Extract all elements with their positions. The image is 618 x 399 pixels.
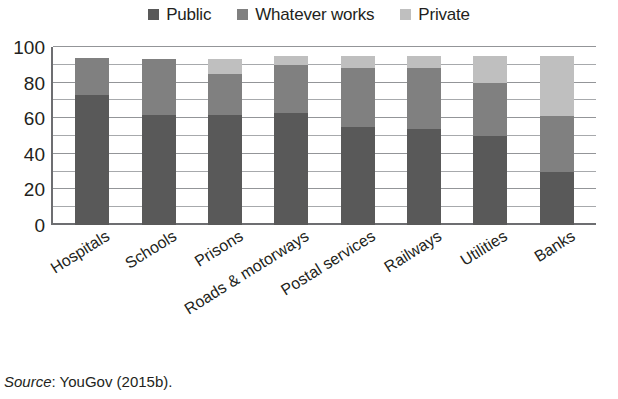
legend-label: Whatever works — [255, 6, 374, 23]
bar-column[interactable] — [274, 47, 308, 225]
bar-column[interactable] — [341, 47, 375, 225]
x-axis-labels: HospitalsSchoolsPrisonsRoads & motorways… — [51, 228, 596, 318]
bar-segment-whatever-works[interactable] — [341, 68, 375, 127]
bar-segment-private[interactable] — [274, 56, 308, 65]
bar-segment-public[interactable] — [142, 115, 176, 225]
bar-segment-public[interactable] — [341, 127, 375, 225]
bar-segment-whatever-works[interactable] — [473, 83, 507, 136]
bar-segment-whatever-works[interactable] — [540, 116, 574, 171]
bar-segment-whatever-works[interactable] — [407, 68, 441, 129]
source-label: Source — [4, 373, 52, 390]
x-axis-tick-label: Hospitals — [48, 228, 112, 276]
bar-segment-private[interactable] — [341, 56, 375, 68]
bar-segment-public[interactable] — [540, 172, 574, 225]
source-note: Source: YouGov (2015b). — [4, 373, 172, 391]
legend-swatch-icon — [148, 9, 159, 20]
bar-segment-whatever-works[interactable] — [274, 65, 308, 113]
bar-segment-public[interactable] — [407, 129, 441, 225]
y-axis-tick-label: 60 — [0, 109, 45, 128]
bar-column[interactable] — [540, 47, 574, 225]
bar-column[interactable] — [208, 47, 242, 225]
x-axis-tick-label: Roads & motorways — [182, 228, 312, 317]
bar-segment-public[interactable] — [473, 136, 507, 225]
chart-legend: PublicWhatever worksPrivate — [0, 6, 618, 23]
y-axis-tick-label: 80 — [0, 73, 45, 92]
y-axis-labels: 020406080100 — [0, 47, 45, 225]
bar-segment-whatever-works[interactable] — [142, 59, 176, 114]
bar-column[interactable] — [407, 47, 441, 225]
bar-segment-private[interactable] — [208, 59, 242, 73]
bar-segment-private[interactable] — [407, 56, 441, 68]
bar-segment-private[interactable] — [473, 56, 507, 83]
source-text: YouGov (2015b). — [60, 373, 173, 390]
y-axis-tick-label: 40 — [0, 144, 45, 163]
legend-item-public[interactable]: Public — [148, 6, 211, 23]
legend-label: Public — [166, 6, 211, 23]
bar-segment-private[interactable] — [540, 56, 574, 117]
bar-column[interactable] — [473, 47, 507, 225]
bar-segment-public[interactable] — [274, 113, 308, 225]
legend-swatch-icon — [400, 9, 411, 20]
bar-segment-public[interactable] — [75, 95, 109, 225]
y-axis-tick-label: 20 — [0, 180, 45, 199]
y-axis-tick-label: 0 — [0, 216, 45, 235]
bar-series-group — [53, 47, 596, 225]
plot-area — [51, 47, 596, 225]
legend-label: Private — [418, 6, 470, 23]
source-separator: : — [52, 373, 60, 390]
bar-column[interactable] — [75, 47, 109, 225]
x-axis-tick-label: Banks — [532, 228, 578, 265]
bar-column[interactable] — [142, 47, 176, 225]
legend-swatch-icon — [237, 9, 248, 20]
bar-segment-whatever-works[interactable] — [75, 58, 109, 95]
y-axis-tick-label: 100 — [0, 38, 45, 57]
bar-segment-public[interactable] — [208, 115, 242, 225]
x-axis-tick-label: Railways — [382, 228, 445, 275]
x-axis-tick-label: Utilities — [458, 228, 510, 269]
legend-item-private[interactable]: Private — [400, 6, 470, 23]
bar-segment-whatever-works[interactable] — [208, 74, 242, 115]
x-axis-tick-label: Schools — [123, 228, 180, 272]
x-axis-tick-label: Prisons — [192, 228, 246, 270]
legend-item-whatever-works[interactable]: Whatever works — [237, 6, 374, 23]
